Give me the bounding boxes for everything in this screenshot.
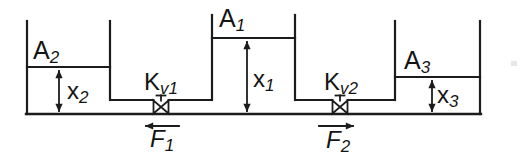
valve-kv1-right-triangle <box>161 101 169 114</box>
label-level-x1: x1 <box>253 65 274 95</box>
label-area-a1: A1 <box>219 4 245 35</box>
label-level-x3: x3 <box>437 81 459 111</box>
label-flow-f2: F2 <box>326 126 351 152</box>
scan-speck <box>511 61 517 66</box>
label-area-a3: A3 <box>404 46 431 77</box>
label-valve-kv2: Kv2 <box>324 68 359 98</box>
valve-kv1-icon <box>154 96 169 114</box>
valve-kv2-right-triangle <box>340 101 348 114</box>
diagram-canvas: A2 A1 A3 Kv1 Kv2 x2 x1 x3 F1 F2 <box>0 0 523 152</box>
valve-kv2-icon <box>333 96 348 114</box>
label-area-a2: A2 <box>33 36 60 67</box>
three-tank-diagram: A2 A1 A3 Kv1 Kv2 x2 x1 x3 F1 F2 <box>0 0 523 152</box>
label-flow-f1: F1 <box>150 125 174 152</box>
label-valve-kv1: Kv1 <box>144 68 178 98</box>
label-level-x2: x2 <box>67 77 89 107</box>
